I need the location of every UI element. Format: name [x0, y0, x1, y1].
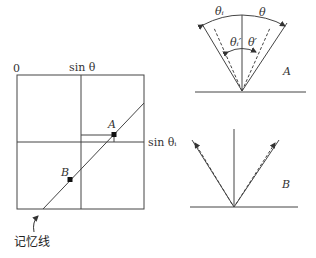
theta-i-prime-label: θᵢ′: [230, 36, 242, 49]
reflected-dashed-ray: [236, 143, 275, 204]
memory-line-arrow-icon: [34, 216, 39, 232]
incident-ray: [202, 24, 242, 91]
origin-label: 0: [13, 62, 20, 75]
incident-dashed-ray: [195, 143, 232, 204]
right-axis-label: sin θᵢ: [148, 136, 177, 149]
diagram-b-label: B: [281, 178, 290, 191]
point-b-label: B: [60, 166, 69, 179]
memory-line: [43, 103, 144, 209]
reflected-ray: [242, 23, 287, 91]
diagram-a-label: A: [282, 65, 291, 78]
memory-line-label: 记忆线: [14, 235, 50, 249]
top-axis-label: sin θ: [69, 61, 96, 74]
left-panel: 0 sin θ sin θᵢ A B 记忆线: [13, 61, 177, 249]
point-a-marker: [112, 132, 117, 137]
diagram-b: B: [190, 129, 298, 207]
theta-prime-label: θ′: [248, 36, 258, 49]
diagram-canvas: 0 sin θ sin θᵢ A B 记忆线 θᵢ θ θᵢ′ θ′ A B: [0, 0, 316, 258]
reflected-ray: [234, 140, 279, 207]
diagram-a: θᵢ θ θᵢ′ θ′ A: [195, 5, 306, 92]
theta-label: θ: [259, 6, 266, 19]
theta-i-label: θᵢ: [215, 5, 224, 18]
point-a-label: A: [107, 118, 116, 131]
